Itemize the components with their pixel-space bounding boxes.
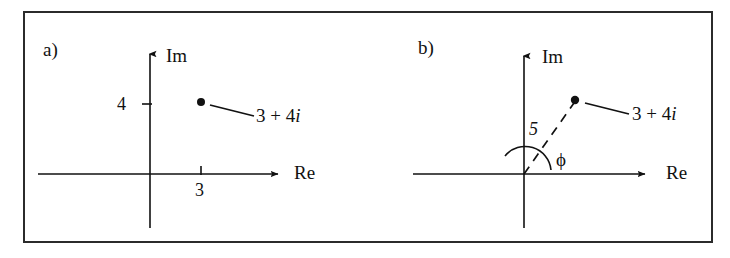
panel-a-point-label-real: 3 + 4	[256, 105, 295, 126]
panel-a-imaginary-axis-label: Im	[166, 46, 187, 65]
panel-a-tick-label-3: 3	[195, 181, 204, 199]
figure-border	[23, 11, 713, 243]
panel-a-tick-label-4: 4	[117, 95, 126, 113]
panel-a-real-axis-label: Re	[294, 163, 315, 182]
panel-b-point-label-imaginary-unit: i	[671, 103, 676, 124]
panel-b-point-label: 3 + 4i	[632, 104, 677, 123]
panel-b-magnitude-label: 5	[529, 120, 538, 138]
panel-b-imaginary-axis-label: Im	[542, 47, 563, 66]
panel-b-tag: b)	[418, 38, 434, 57]
panel-a-point-label: 3 + 4i	[256, 106, 301, 125]
panel-a-tag: a)	[43, 40, 58, 59]
panel-b-angle-label: ϕ	[556, 150, 566, 169]
panel-b-real-axis-label: Re	[666, 163, 687, 182]
complex-plane-figure: a) Im Re 4 3 3 + 4i b) Im Re 5 ϕ 3 + 4i	[0, 0, 730, 258]
panel-a-point-label-imaginary-unit: i	[295, 105, 300, 126]
panel-b-point-label-real: 3 + 4	[632, 103, 671, 124]
